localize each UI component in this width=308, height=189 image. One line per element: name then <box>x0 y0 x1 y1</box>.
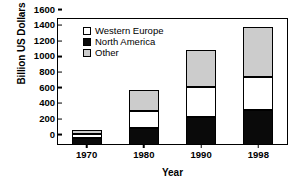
y-axis-tick-label: 1600 <box>34 5 58 15</box>
y-axis-tick: 1200 <box>34 36 58 46</box>
y-axis-tick-mark <box>58 71 62 72</box>
legend-item: Western Europe <box>83 25 163 36</box>
y-axis-tick: 1400 <box>34 20 58 30</box>
x-axis-tick: 1970 <box>76 144 97 160</box>
y-axis-tick-label: 1400 <box>34 20 58 30</box>
x-axis-tick: 1998 <box>248 144 269 160</box>
x-axis-title: Year <box>57 168 288 178</box>
y-axis-tick-mark <box>58 40 62 41</box>
x-axis-tick-label: 1990 <box>191 150 212 160</box>
x-axis-tick: 1980 <box>133 144 154 160</box>
y-axis-tick-label: 800 <box>39 67 58 77</box>
x-axis-tick-mark <box>143 144 144 148</box>
y-axis-tick-mark <box>58 118 62 119</box>
legend-item-label: Other <box>95 48 119 58</box>
bar-segment <box>129 128 159 144</box>
y-axis-tick-label: 400 <box>39 99 58 109</box>
bar-segment <box>186 87 216 117</box>
bar-segment <box>186 117 216 144</box>
legend: Western EuropeNorth AmericaOther <box>81 24 165 59</box>
x-axis-tick-label: 1998 <box>248 150 269 160</box>
y-axis-tick-label: 1200 <box>34 36 58 46</box>
x-axis-tick-mark <box>200 144 201 148</box>
y-axis-tick-label: 200 <box>39 114 58 124</box>
y-axis-tick-label: 600 <box>39 83 58 93</box>
bar-segment <box>72 138 102 144</box>
plot-area: 02004006008001000120014001600 1970198019… <box>57 18 288 145</box>
y-axis-tick-mark <box>58 24 62 25</box>
legend-item-label: Western Europe <box>95 26 163 36</box>
y-axis-title: Billion US Dollars <box>16 0 27 109</box>
bar-1980 <box>129 90 159 144</box>
bar-segment <box>129 111 159 128</box>
legend-swatch-icon <box>83 27 91 35</box>
y-axis-tick: 800 <box>39 67 58 77</box>
y-axis-tick-mark <box>58 9 62 10</box>
y-axis-tick-label: 1000 <box>34 52 58 62</box>
bar-segment <box>243 77 273 110</box>
y-axis-tick-mark <box>58 103 62 104</box>
x-axis-tick: 1990 <box>191 144 212 160</box>
y-axis-tick: 0 <box>50 130 58 140</box>
bar-segment <box>243 27 273 77</box>
y-axis-tick-mark <box>58 56 62 57</box>
legend-item: North America <box>83 36 163 47</box>
y-axis-tick: 400 <box>39 99 58 109</box>
y-axis-tick: 200 <box>39 114 58 124</box>
y-axis-tick-label: 0 <box>50 130 58 140</box>
y-axis-tick: 1000 <box>34 52 58 62</box>
y-axis-tick: 600 <box>39 83 58 93</box>
bar-segment <box>129 90 159 111</box>
y-axis-tick-mark <box>58 87 62 88</box>
legend-swatch-icon <box>83 38 91 46</box>
bar-1998 <box>243 27 273 144</box>
y-axis-tick-mark <box>58 134 62 135</box>
x-axis-tick-mark <box>258 144 259 148</box>
legend-item: Other <box>83 47 163 58</box>
y-axis-tick: 1600 <box>34 5 58 15</box>
legend-item-label: North America <box>95 37 155 47</box>
bar-segment <box>186 50 216 87</box>
bar-1990 <box>186 50 216 144</box>
x-axis-tick-label: 1970 <box>76 150 97 160</box>
bar-chart: Billion US Dollars 020040060080010001200… <box>0 0 308 189</box>
x-axis-tick-label: 1980 <box>133 150 154 160</box>
legend-swatch-icon <box>83 49 91 57</box>
bar-segment <box>243 110 273 144</box>
x-axis-tick-mark <box>86 144 87 148</box>
bar-1970 <box>72 130 102 144</box>
